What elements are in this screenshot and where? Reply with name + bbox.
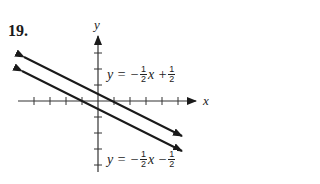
x-axis-label: x xyxy=(203,93,209,109)
eq1-den: 2 xyxy=(141,75,146,84)
y-axis xyxy=(94,36,102,172)
eq1-den2: 2 xyxy=(169,75,174,84)
eq1-fraction-1: 12 xyxy=(140,65,147,84)
eq2-num2: 1 xyxy=(169,150,174,159)
eq1-lhs: y = − xyxy=(107,67,139,83)
y-axis-label: y xyxy=(94,17,100,33)
eq1-fraction-2: 12 xyxy=(168,65,175,84)
eq2-mid: x − xyxy=(148,152,167,168)
eq1-mid: x + xyxy=(148,67,167,83)
eq1-num2: 1 xyxy=(169,65,174,74)
eq2-lhs: y = − xyxy=(107,152,139,168)
eq1-num: 1 xyxy=(141,65,146,74)
equation-label-upper: y = − 12 x + 12 xyxy=(106,65,177,84)
eq2-den: 2 xyxy=(141,160,146,169)
eq2-den2: 2 xyxy=(169,160,174,169)
eq2-num: 1 xyxy=(141,150,146,159)
equation-label-lower: y = − 12 x − 12 xyxy=(106,150,177,169)
eq2-fraction-2: 12 xyxy=(168,150,175,169)
eq2-fraction-1: 12 xyxy=(140,150,147,169)
